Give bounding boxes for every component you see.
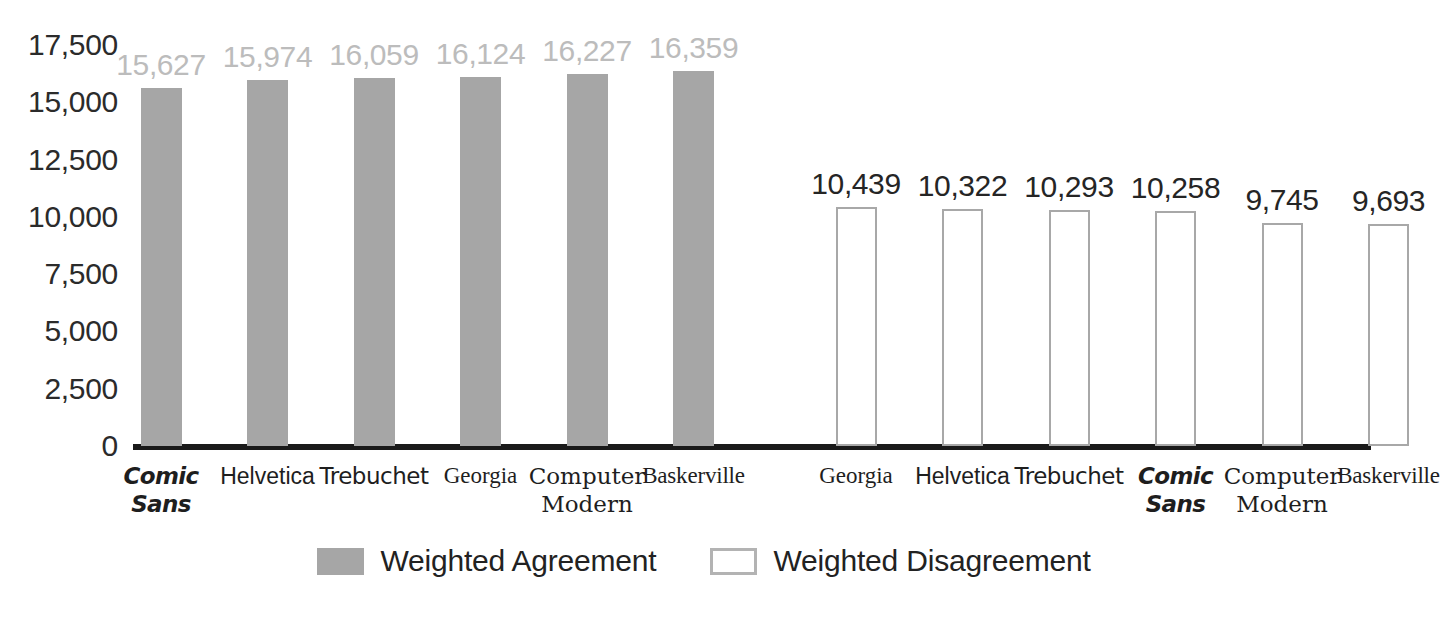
x-axis-category-label: ComputerModern — [527, 462, 647, 518]
legend-item[interactable]: Weighted Disagreement — [710, 546, 1090, 576]
x-axis-category-label: ComputerModern — [1222, 462, 1342, 518]
y-axis-tick-label: 2,500 — [0, 374, 118, 404]
bar[interactable] — [567, 74, 608, 446]
legend-label: Weighted Disagreement — [773, 546, 1090, 576]
y-axis-tick-label: 5,000 — [0, 316, 118, 346]
bar-value-label: 9,693 — [1319, 186, 1444, 216]
x-axis-category-label: Georgia — [796, 462, 916, 490]
legend-item[interactable]: Weighted Agreement — [317, 546, 656, 576]
x-axis-category-label: Baskerville — [634, 462, 754, 490]
bar[interactable] — [247, 80, 288, 446]
bar[interactable] — [1368, 224, 1409, 446]
x-axis-category-label: Trebuchet — [1009, 462, 1129, 490]
bar-value-label: 16,359 — [624, 33, 764, 63]
bar[interactable] — [1155, 211, 1196, 446]
x-axis-category-label: Trebuchet — [314, 462, 434, 490]
bar[interactable] — [1049, 210, 1090, 446]
legend-swatch-icon — [317, 548, 364, 575]
legend-label: Weighted Agreement — [380, 546, 656, 576]
y-axis-tick-label: 15,000 — [0, 87, 118, 117]
bar[interactable] — [141, 88, 182, 446]
bar[interactable] — [460, 77, 501, 446]
bar[interactable] — [1262, 223, 1303, 446]
x-axis-category-label: Georgia — [421, 462, 541, 490]
y-axis-tick-label: 0 — [0, 431, 118, 461]
x-axis-category-label: Baskerville — [1329, 462, 1444, 490]
bar[interactable] — [354, 78, 395, 446]
y-axis-tick-label: 12,500 — [0, 145, 118, 175]
x-axis-category-label: ComicSans — [1116, 462, 1236, 518]
chart-legend: Weighted AgreementWeighted Disagreement — [0, 536, 1408, 586]
bar[interactable] — [942, 209, 983, 446]
x-axis-category-label: Helvetica — [208, 462, 328, 490]
bar[interactable] — [673, 71, 714, 446]
x-axis-category-label: Helvetica — [903, 462, 1023, 490]
legend-swatch-icon — [710, 548, 757, 575]
y-axis-tick-label: 10,000 — [0, 202, 118, 232]
y-axis-tick-label: 7,500 — [0, 259, 118, 289]
bar[interactable] — [836, 207, 877, 446]
x-axis-category-label: ComicSans — [101, 462, 221, 518]
